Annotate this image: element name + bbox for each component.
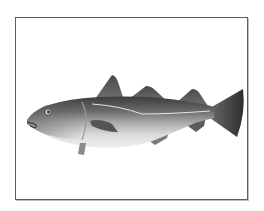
tail-fin xyxy=(210,89,244,137)
head-shading xyxy=(27,100,84,138)
dorsal-fin-1 xyxy=(95,75,123,99)
fish-illustration xyxy=(0,0,264,211)
pupil xyxy=(47,111,50,114)
